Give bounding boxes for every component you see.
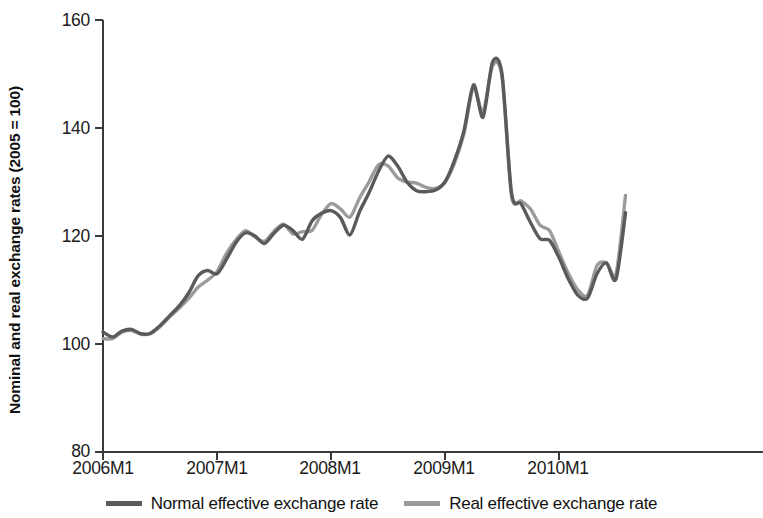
x-tick-label-2008m1: 2008M1 — [275, 458, 385, 479]
series-line-normal — [103, 58, 626, 337]
x-tick-label-2006m1: 2006M1 — [48, 458, 158, 479]
y-axis-title-container: Nominal and real exchange rates (2005 = … — [0, 0, 34, 470]
legend-swatch-normal — [106, 501, 142, 506]
x-tick-label-2009m1: 2009M1 — [389, 458, 499, 479]
legend-item-normal: Normal effective exchange rate — [106, 494, 378, 514]
plot-area — [0, 0, 763, 518]
y-tick-label-120: 120 — [44, 226, 90, 247]
x-tick-label-2010m1: 2010M1 — [503, 458, 613, 479]
legend-label-real: Real effective exchange rate — [449, 494, 657, 514]
legend-label-normal: Normal effective exchange rate — [151, 494, 378, 514]
chart-figure: Nominal and real exchange rates (2005 = … — [0, 0, 763, 518]
y-tick-label-100: 100 — [44, 334, 90, 355]
y-axis-title: Nominal and real exchange rates (2005 = … — [0, 15, 30, 485]
legend-swatch-real — [404, 501, 440, 506]
data-series-group — [103, 58, 626, 339]
legend-item-real: Real effective exchange rate — [404, 494, 657, 514]
chart-legend: Normal effective exchange rate Real effe… — [0, 489, 763, 518]
y-tick-label-140: 140 — [44, 118, 90, 139]
x-tick-label-2007m1: 2007M1 — [162, 458, 272, 479]
y-tick-label-160: 160 — [44, 10, 90, 31]
y-tick-marks — [95, 20, 103, 452]
